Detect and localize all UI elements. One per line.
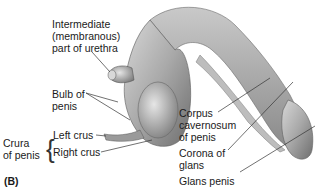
label-right-crus: Right crus [53, 146, 100, 158]
label-line: penis [52, 100, 85, 112]
label-intermediate-urethra: Intermediate (membranous) part of urethr… [52, 18, 120, 54]
bulb-shape [138, 82, 178, 138]
label-corpus-cavernosum: Corpus cavernosum of penis [179, 107, 236, 143]
label-line: Intermediate [52, 18, 120, 30]
label-line: Corona of [179, 147, 225, 159]
label-line: Bulb of [52, 88, 85, 100]
label-line: (membranous) [52, 30, 120, 42]
label-glans-penis: Glans penis [179, 175, 234, 187]
label-line: part of urethra [52, 42, 120, 54]
crus-shape [104, 130, 144, 141]
label-line: cavernosum [179, 119, 236, 131]
label-crura-of-penis: Crura of penis [3, 137, 40, 161]
label-line: of penis [3, 149, 40, 161]
panel-label: (B) [4, 175, 19, 187]
glans-shape [282, 100, 313, 159]
label-bulb-of-penis: Bulb of penis [52, 88, 85, 112]
label-line: glans [179, 159, 225, 171]
label-left-crus: Left crus [53, 129, 93, 141]
label-corona-of-glans: Corona of glans [179, 147, 225, 171]
label-line: of penis [179, 131, 236, 143]
label-line: Crura [3, 137, 40, 149]
label-line: Corpus [179, 107, 236, 119]
